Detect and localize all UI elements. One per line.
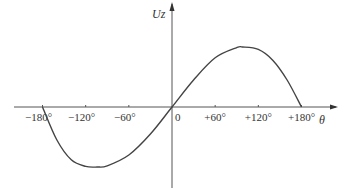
uz-vs-theta-chart: −180°−120°−60°0+60°+120°+180° θ Uz [0,0,354,192]
x-tick-label: −60° [114,111,136,123]
x-tick-label: +120° [245,111,272,123]
x-axis-label: θ [319,113,325,127]
y-axis [170,2,175,188]
x-tick-label: −120° [68,111,95,123]
x-axis-arrow-icon [330,105,338,110]
y-axis-label: Uz [152,7,166,21]
x-tick-labels: −180°−120°−60°0+60°+120°+180° [25,111,315,123]
y-axis-arrow-icon [170,2,175,11]
x-axis [14,105,338,110]
x-tick-label: +180° [288,111,315,123]
x-tick-label: 0 [175,111,181,123]
x-tick-label: +60° [204,111,226,123]
